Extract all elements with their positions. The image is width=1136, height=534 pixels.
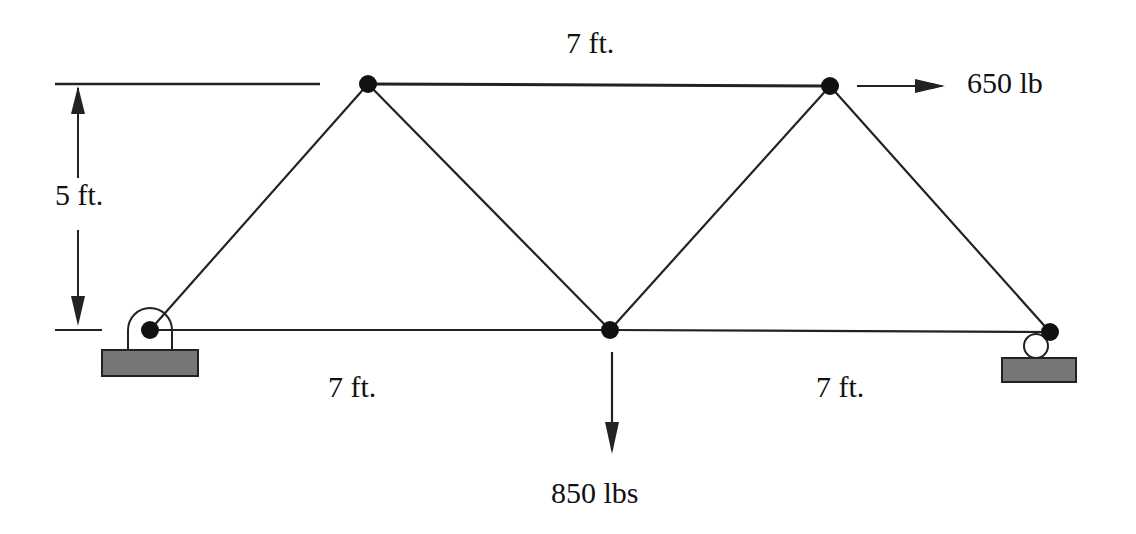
joint-b: [359, 75, 377, 93]
arrow-down-icon: [71, 296, 85, 326]
pin-support: [102, 308, 198, 376]
vertical-load-label: 850 lbs: [551, 478, 639, 508]
truss-members: [150, 84, 1050, 332]
member-cd: [610, 86, 830, 330]
member-bd: [368, 84, 830, 86]
height-label: 5 ft.: [55, 180, 103, 210]
top-span-label: 7 ft.: [566, 28, 614, 58]
arrow-right-icon: [915, 79, 945, 93]
joint-e: [1041, 323, 1059, 341]
arrow-up-icon: [71, 86, 85, 114]
truss-diagram: [0, 0, 1136, 534]
joint-c: [601, 321, 619, 339]
horizontal-load-label: 650 lb: [967, 68, 1043, 98]
member-de: [830, 86, 1050, 332]
arrow-down-load-icon: [605, 422, 619, 454]
joint-d: [821, 77, 839, 95]
joint-a: [141, 321, 159, 339]
member-ab: [150, 84, 368, 330]
roller-support: [1002, 334, 1076, 382]
member-bc: [368, 84, 610, 330]
member-ce: [610, 330, 1050, 332]
bottom-left-span-label: 7 ft.: [328, 372, 376, 402]
bottom-right-span-label: 7 ft.: [816, 372, 864, 402]
